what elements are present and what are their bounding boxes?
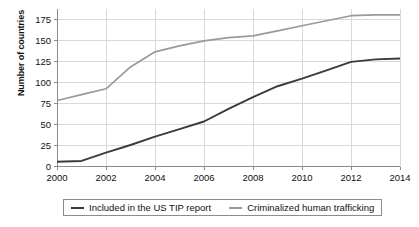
x-axis-tick-label: 2012 — [331, 173, 371, 183]
x-axis-tick-mark — [204, 167, 205, 170]
series-lines — [57, 9, 400, 167]
gridline-vertical — [400, 9, 401, 167]
x-axis-tick-mark — [400, 167, 401, 170]
x-axis-tick-mark — [253, 167, 254, 170]
legend-item-criminalized[interactable]: Criminalized human trafficking — [229, 203, 374, 213]
x-axis-tick-label: 2004 — [135, 173, 175, 183]
x-axis-tick-mark — [302, 167, 303, 170]
legend-item-tip-report[interactable]: Included in the US TIP report — [71, 203, 211, 213]
x-axis-tick-label: 2000 — [37, 173, 77, 183]
x-axis-tick-mark — [155, 167, 156, 170]
legend-swatch-icon — [71, 207, 84, 209]
legend-label: Criminalized human trafficking — [247, 203, 374, 213]
x-axis-tick-label: 2006 — [184, 173, 224, 183]
x-axis-tick-label: 2010 — [282, 173, 322, 183]
series-line — [57, 15, 400, 101]
line-chart: Number of countries 0255075100125150175 … — [0, 0, 419, 227]
x-axis-tick-label: 2002 — [86, 173, 126, 183]
x-axis-tick-label: 2008 — [233, 173, 273, 183]
x-axis-tick-mark — [106, 167, 107, 170]
x-axis-tick-mark — [351, 167, 352, 170]
plot-area — [57, 9, 400, 167]
x-axis-tick-label: 2014 — [380, 173, 419, 183]
legend-label: Included in the US TIP report — [89, 203, 211, 213]
legend-swatch-icon — [229, 207, 242, 209]
x-axis-tick-mark — [57, 167, 58, 170]
legend: Included in the US TIP report Criminaliz… — [63, 199, 382, 216]
series-line — [57, 59, 400, 162]
